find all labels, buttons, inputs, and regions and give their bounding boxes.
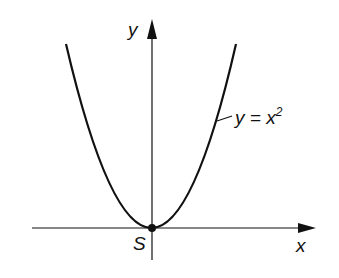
y-axis-arrow-icon xyxy=(147,19,157,39)
x-axis-label: x xyxy=(296,236,306,255)
equation-exponent: 2 xyxy=(276,105,283,119)
y-axis-label: y xyxy=(128,20,138,39)
parabola-diagram xyxy=(0,0,339,278)
vertex-label: S xyxy=(133,234,146,253)
equation-base: y = x xyxy=(235,107,276,128)
curve-label-leader xyxy=(217,116,232,121)
curve-equation: y = x2 xyxy=(235,108,282,127)
x-axis-arrow-icon xyxy=(298,223,316,233)
parabola-curve xyxy=(66,44,236,228)
vertex-point xyxy=(148,224,156,232)
